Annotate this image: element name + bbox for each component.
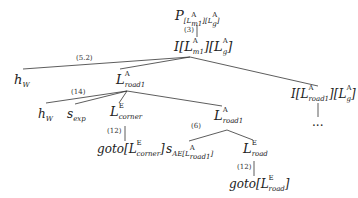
node-sexp: sexp (67, 108, 86, 125)
node-lroad1: LAroad1 (116, 74, 145, 88)
edge-lroad1-lroad1b (127, 91, 222, 106)
node-ellipsis: ... (312, 116, 323, 128)
edge-i-lroad1 (120, 57, 190, 69)
edge-label-3: (3) (184, 26, 194, 34)
edge-label-14: (14) (71, 88, 85, 96)
node-lcorner: LEcorner (110, 106, 142, 120)
node-hw-low: hW (38, 108, 53, 125)
node-i-main: I[LAm1][LAg] (174, 41, 232, 55)
node-root-p: P[LAm1][LAg] (175, 10, 220, 27)
edge-label-12b: (12) (237, 163, 251, 171)
node-i-road: I[LAroad1][LAg] (291, 88, 356, 102)
node-goto-road: goto[LEroad] (229, 178, 290, 192)
edge-i-hw (23, 57, 190, 69)
node-goto-corner: goto[LEcorner] (97, 143, 165, 157)
proof-tree-diagram: P[LAm1][LAg] (3) I[LAm1][LAg] (5.2) hW L… (0, 0, 358, 198)
edge-lroad1b-lroad (227, 130, 253, 140)
node-sae: sAE[LAroad1] (166, 143, 213, 160)
edge-lroad1b-sae (189, 130, 227, 141)
edge-i-iroad (190, 57, 318, 86)
edge-label-5-2: (5.2) (76, 54, 93, 62)
node-lroad1b: LAroad1 (214, 110, 243, 124)
edge-label-12a: (12) (107, 127, 121, 135)
node-lroad: LEroad (243, 143, 268, 157)
node-base: P (175, 8, 184, 23)
node-hw-top: hW (14, 74, 30, 91)
edge-label-6: (6) (191, 122, 201, 130)
